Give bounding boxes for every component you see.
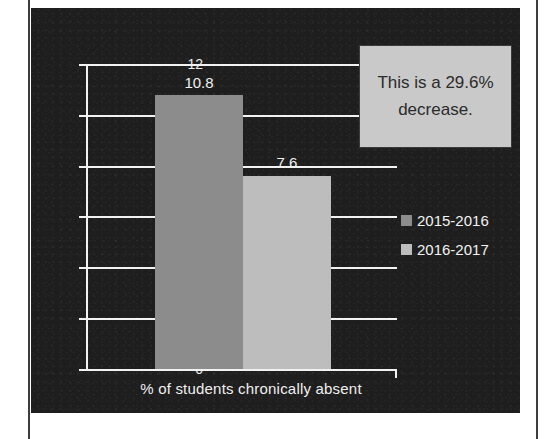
legend-item-2016-2017[interactable]: 2016-2017 [401, 235, 489, 264]
bar-value-label-2015-2016: 10.8 [155, 74, 243, 91]
callout-textbox[interactable]: This is a 29.6% decrease. [359, 45, 512, 148]
scanned-page: 12 10 8 6 4 2 0 [0, 0, 550, 439]
y-tick-mark-4 [79, 267, 87, 269]
axis-end-tick [395, 369, 397, 378]
plot-area: 10.8 7.6 [86, 64, 397, 369]
legend-swatch-icon-2016-2017 [401, 244, 412, 255]
chart-legend: 2015-2016 2016-2017 [401, 206, 489, 264]
y-tick-mark-0 [79, 369, 87, 371]
page-margin-rule-right [536, 0, 538, 439]
legend-item-2015-2016[interactable]: 2015-2016 [401, 206, 489, 235]
bar-chart: 12 10 8 6 4 2 0 [31, 8, 520, 413]
y-tick-mark-8 [79, 166, 87, 168]
y-tick-mark-10 [79, 115, 87, 117]
bar-2015-2016[interactable] [155, 95, 243, 369]
page-margin-rule-left [28, 0, 30, 439]
gridline-12 [86, 64, 397, 66]
y-tick-mark-12 [79, 64, 87, 66]
legend-swatch-icon-2015-2016 [401, 215, 412, 226]
x-axis-title: % of students chronically absent [86, 380, 416, 397]
callout-text: This is a 29.6% decrease. [368, 70, 503, 123]
y-tick-mark-2 [79, 318, 87, 320]
y-tick-mark-6 [79, 216, 87, 218]
bar-value-label-2016-2017: 7.6 [243, 154, 331, 171]
bar-2016-2017[interactable] [243, 176, 331, 369]
legend-label-2016-2017: 2016-2017 [417, 241, 489, 258]
legend-label-2015-2016: 2015-2016 [417, 212, 489, 229]
axis-line-x [86, 369, 397, 371]
